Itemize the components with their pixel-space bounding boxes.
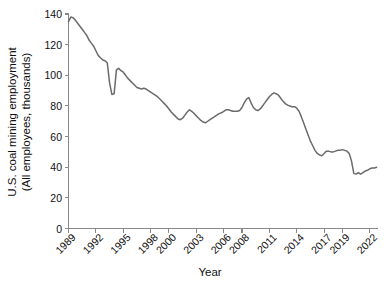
x-tick-label: 1989 bbox=[53, 231, 78, 256]
x-tick-label: 2008 bbox=[226, 231, 251, 256]
y-tick-label: 60 bbox=[50, 131, 62, 143]
x-tick-label: 1992 bbox=[80, 231, 105, 256]
y-axis-tick-labels: 020406080100120140 bbox=[44, 8, 62, 235]
x-tick-label: 2019 bbox=[327, 231, 352, 256]
line-chart: U.S. coal mining employment (All employe… bbox=[0, 0, 388, 287]
y-axis-title-group: U.S. coal mining employment (All employe… bbox=[6, 46, 32, 196]
x-tick-label: 2011 bbox=[254, 231, 279, 256]
x-tick-label: 1995 bbox=[108, 231, 133, 256]
y-tick-label: 40 bbox=[50, 161, 62, 173]
employment-series-line bbox=[69, 17, 377, 174]
x-axis-tick-labels: 1989199219951998200020032006200820112014… bbox=[53, 231, 379, 256]
y-tick-label: 0 bbox=[56, 223, 62, 235]
x-tick-label: 2014 bbox=[281, 231, 306, 256]
x-tick-label: 2003 bbox=[181, 231, 206, 256]
y-tick-label: 100 bbox=[44, 69, 62, 81]
x-tick-label: 2000 bbox=[153, 231, 178, 256]
chart-container: U.S. coal mining employment (All employe… bbox=[0, 0, 388, 287]
x-axis-title: Year bbox=[198, 266, 221, 278]
x-tick-label: 2022 bbox=[354, 231, 379, 256]
y-tick-label: 120 bbox=[44, 39, 62, 51]
y-tick-label: 140 bbox=[44, 8, 62, 20]
y-axis-tick-marks bbox=[65, 14, 69, 229]
y-axis-title-line2: (All employees, thousands) bbox=[20, 52, 32, 191]
y-tick-label: 80 bbox=[50, 100, 62, 112]
y-tick-label: 20 bbox=[50, 192, 62, 204]
y-axis-title-line1: U.S. coal mining employment bbox=[6, 46, 18, 196]
